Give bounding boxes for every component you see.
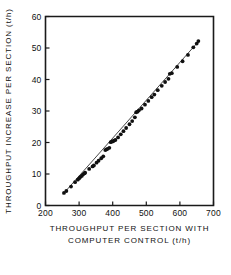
y-tick-label: 20 [32,138,42,148]
x-tick-label: 400 [105,208,120,218]
data-point [140,107,144,111]
plot-axes [46,17,214,206]
data-point [181,59,185,63]
y-tick-label: 0 [37,201,42,211]
y-tick-label: 30 [32,106,42,116]
data-point [160,84,164,88]
y-axis-title-text: THROUGHPUT INCREASE PER SECTION (t/h) [4,8,13,214]
data-point [116,136,120,140]
x-axis-title: THROUGHPUT PER SECTION WITHCOMPUTER CONT… [50,224,210,245]
y-tick-label: 10 [32,169,42,179]
x-tick-label: 500 [139,208,154,218]
y-tick-label: 40 [32,75,42,85]
data-point [175,65,179,69]
plot-frame [46,17,214,206]
data-point [119,132,123,136]
data-point [128,122,132,126]
x-tick-label: 300 [72,208,87,218]
data-point [152,93,156,97]
scatter-plot: 200300400500600700 0102030405060 THROUGH… [0,0,231,275]
data-point [156,88,160,92]
fit-line [63,40,199,194]
data-point [167,77,171,81]
data-point [133,115,137,119]
data-point [122,129,126,133]
data-point [69,185,73,189]
data-point [83,171,87,175]
data-point [191,45,195,49]
data-point [101,154,105,158]
x-tick-label: 700 [206,208,221,218]
data-point [163,80,167,84]
data-point [107,146,111,150]
x-tick-label: 600 [173,208,188,218]
data-point [146,99,150,103]
data-point [186,53,190,57]
data-point [130,119,134,123]
data-point [124,126,128,130]
data-point [64,189,68,193]
data-point [170,71,174,75]
x-axis-tick-labels: 200300400500600700 [38,208,221,218]
y-tick-label: 50 [32,43,42,53]
axis-ticks [46,17,214,206]
data-point [87,167,91,171]
trend-line [63,40,199,194]
x-axis-title-line: THROUGHPUT PER SECTION WITH [50,224,210,233]
x-axis-title-line: COMPUTER CONTROL (t/h) [68,236,191,245]
y-axis-tick-labels: 0102030405060 [32,12,42,211]
y-tick-label: 60 [32,12,42,22]
y-axis-title: THROUGHPUT INCREASE PER SECTION (t/h) [4,8,13,214]
data-point [143,103,147,107]
data-point [92,164,96,168]
chart-figure: 200300400500600700 0102030405060 THROUGH… [0,0,231,275]
data-point [196,39,200,43]
